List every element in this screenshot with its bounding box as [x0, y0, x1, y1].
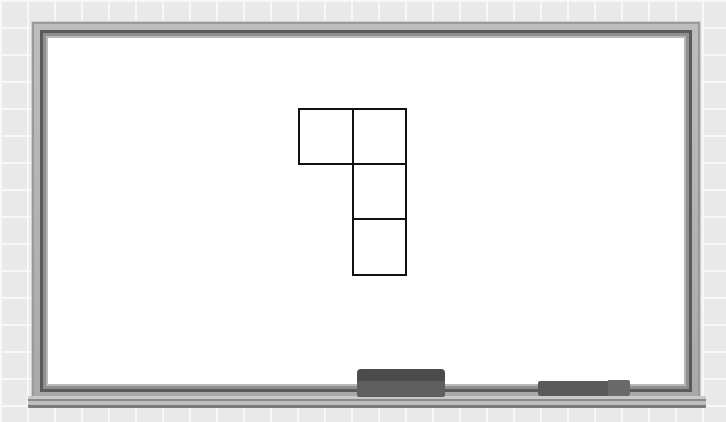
eraser-icon: [357, 369, 445, 397]
unit-square-top-right: [352, 108, 407, 165]
marker-tray: [28, 396, 706, 408]
unit-square-top-left: [298, 108, 354, 165]
unit-square-middle: [352, 163, 407, 220]
unit-square-bottom: [352, 218, 407, 276]
marker-cap: [608, 380, 630, 396]
marker-body: [538, 381, 608, 396]
marker-icon: [538, 381, 630, 396]
